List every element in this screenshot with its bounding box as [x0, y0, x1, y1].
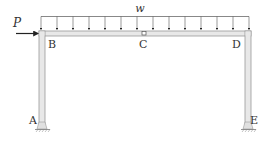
label-a: A: [28, 114, 38, 127]
label-b: B: [48, 38, 56, 51]
hinge-c-icon: [142, 32, 146, 36]
label-p: P: [12, 16, 22, 30]
column-ab: [39, 31, 45, 127]
load-arrows: [41, 17, 249, 30]
label-e: E: [250, 114, 258, 127]
label-w: w: [135, 2, 145, 15]
distributed-load: w: [41, 2, 249, 29]
label-c: C: [139, 38, 147, 51]
support-a: [35, 122, 50, 132]
column-de: [245, 31, 251, 127]
label-d: D: [232, 38, 241, 51]
point-load-p: P: [12, 16, 38, 34]
portal-frame-diagram: w: [0, 0, 270, 146]
